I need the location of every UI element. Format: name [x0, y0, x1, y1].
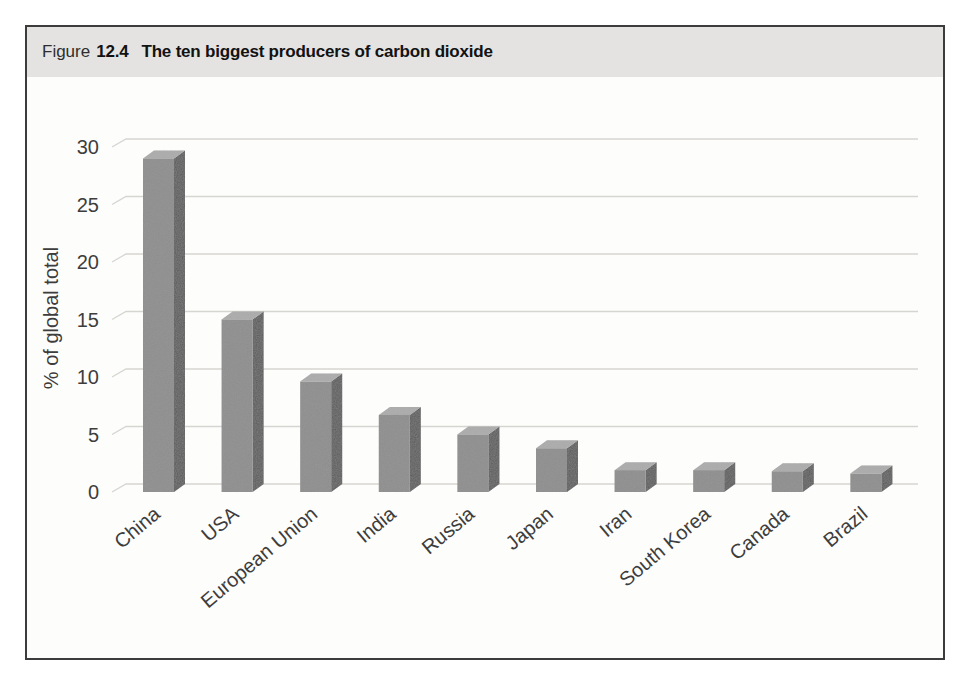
page: Figure 12.4 The ten biggest producers of…: [0, 0, 969, 680]
figure-title: The ten biggest producers of carbon diox…: [141, 42, 492, 62]
figure-header: Figure 12.4 The ten biggest producers of…: [27, 27, 943, 77]
figure-number: 12.4: [96, 42, 128, 62]
figure-label: Figure: [42, 42, 90, 62]
figure-box: Figure 12.4 The ten biggest producers of…: [25, 25, 945, 660]
